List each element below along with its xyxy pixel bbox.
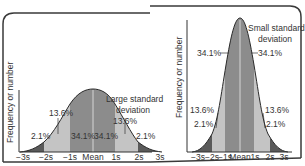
left-tick-neg3: −3s [16,152,30,162]
left-annotation-line2: deviation [116,105,150,115]
left-ylabel: Frequency or number [5,62,15,143]
left-tick-2: 2s [135,152,144,162]
left-pct-34-left: 34.1% [71,131,96,141]
left-tick-3: 3s [156,152,165,162]
left-tick-neg2: −2s [39,152,53,162]
right-pct-34-right: 34.1% [258,48,283,58]
right-annotation-line2: deviation [258,34,292,44]
right-pct-13-right: 13.6% [265,105,290,115]
left-tick-1: 1s [112,152,121,162]
left-pct-13-right: 13.6% [113,116,138,126]
left-pct-2-right: 2.1% [136,131,156,141]
left-outer-band-left [19,80,44,153]
left-annotation-line1: Large standard [106,94,163,104]
right-pct-2-right: 2.1% [266,119,286,129]
right-pct-13-left: 13.6% [190,105,215,115]
right-ylabel: Frequency or number [174,37,184,118]
right-pct-34-left: 34.1% [197,48,222,58]
left-pct-34-right: 34.1% [94,131,119,141]
left-tick-neg1: −1s [63,152,77,162]
left-pct-2-left: 2.1% [31,131,51,141]
left-outer-band-right [138,80,164,153]
left-chart: Frequency or number Large standard devia… [5,62,164,162]
right-annotation-line1: Small standard [248,23,305,33]
right-tick-neg2: −2s [205,152,219,162]
right-outer-band-left [190,10,212,153]
right-pct-2-left: 2.1% [194,119,214,129]
left-tick-mean: Mean [82,152,104,162]
right-tick-3: 3s [280,152,289,162]
normal-distribution-figure: Frequency or number Large standard devia… [0,0,305,166]
left-pct-13-left: 13.6% [49,108,74,118]
right-tick-2: 2s [266,152,275,162]
left-inner-band [70,80,115,153]
right-tick-1: 1s [251,152,260,162]
right-tick-neg3: −3s [191,152,205,162]
right-tick-mean: Mean [229,152,251,162]
right-chart: Frequency or number Small standard devia… [174,10,305,162]
